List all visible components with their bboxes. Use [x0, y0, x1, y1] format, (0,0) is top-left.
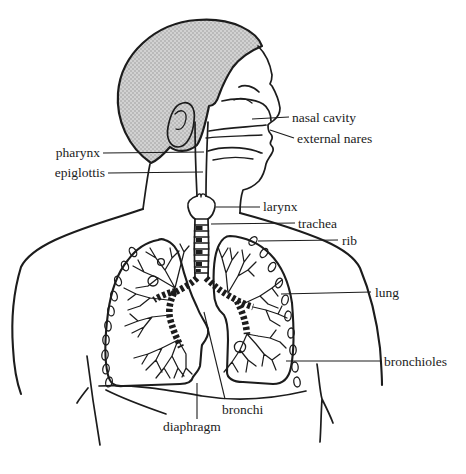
respiratory-system-figure: pharynx epiglottis nasal cavity external…: [0, 0, 466, 474]
tongue-line: [208, 148, 262, 153]
airway: [154, 122, 253, 347]
label-bronchi: bronchi: [222, 402, 263, 417]
label-larynx: larynx: [263, 199, 298, 214]
pharynx-tube-right-line: [206, 122, 208, 196]
leader-line-lung: [281, 292, 371, 294]
nasal-cavity-roof-line: [222, 99, 271, 121]
left-armpit-crease: [77, 356, 100, 445]
leader-line-pharynx: [103, 152, 204, 153]
label-diaphragm: diaphragm: [163, 419, 221, 434]
lungs: [105, 236, 293, 386]
eyebrow: [239, 86, 259, 92]
label-epiglottis: epiglottis: [55, 165, 105, 180]
right-lung-outline: [214, 236, 294, 384]
trachea-structure: [194, 219, 209, 277]
label-bronchioles: bronchioles: [384, 354, 447, 369]
right-armpit-crease: [317, 364, 333, 442]
leader-line-trachea: [211, 223, 295, 224]
right-shoulder-arm-line: [240, 213, 382, 385]
leader-line-epiglottis: [108, 172, 203, 173]
label-pharynx: pharynx: [56, 145, 100, 160]
label-lung: lung: [375, 285, 399, 300]
leader-line-external-nares: [270, 130, 294, 138]
leader-line-bronchi: [204, 312, 225, 399]
neck-back-line: [143, 164, 150, 209]
mouth-top-line: [206, 135, 262, 138]
label-rib: rib: [342, 233, 357, 248]
diaphragm-structure: [99, 386, 306, 414]
face-profile-line: [240, 46, 280, 213]
hair: [118, 20, 262, 163]
palate-line: [209, 125, 266, 131]
cut-airway-loop: [148, 276, 158, 286]
head: [118, 20, 280, 213]
label-external-nares: external nares: [297, 131, 372, 146]
left-lung-outline: [105, 239, 208, 386]
mouth-floor-line: [213, 158, 253, 160]
respiratory-diagram-canvas: pharynx epiglottis nasal cavity external…: [0, 0, 466, 474]
larynx-top-notch: [197, 194, 206, 197]
larynx-structure: [188, 194, 215, 219]
left-shoulder-arm-line: [12, 209, 143, 394]
bronchi-tubes: [154, 278, 253, 347]
label-trachea: trachea: [298, 216, 337, 231]
label-nasal-cavity: nasal cavity: [292, 110, 356, 125]
